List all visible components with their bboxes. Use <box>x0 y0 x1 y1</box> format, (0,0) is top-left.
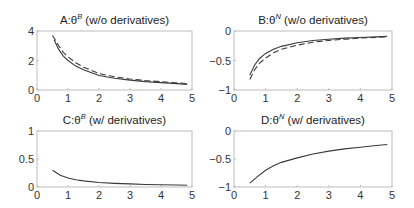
x-tick-label: 3 <box>326 92 332 104</box>
x-tick-label: 0 <box>34 189 40 201</box>
x-tick-label: 4 <box>158 92 164 104</box>
y-tick-label: −0.5 <box>209 153 231 165</box>
series-line-B-dashed <box>250 37 387 79</box>
y-tick-label: 2 <box>28 55 34 67</box>
x-tick-label: 2 <box>294 189 300 201</box>
series-line-A-dashed <box>53 35 188 83</box>
panel-B: 012345−1−0.50B:θN (w/o derivatives) <box>209 12 395 104</box>
x-tick-label: 2 <box>96 189 102 201</box>
y-tick-label: −1 <box>218 181 231 193</box>
panel-D: 012345−1−0.50D:θN (w/ derivatives) <box>209 112 395 201</box>
x-tick-label: 0 <box>34 92 40 104</box>
x-tick-label: 0 <box>231 92 237 104</box>
y-tick-label: −0.5 <box>209 55 231 67</box>
y-tick-label: 0 <box>28 84 34 96</box>
y-tick-label: 0 <box>225 25 231 37</box>
series-line-B-solid <box>250 36 387 75</box>
y-tick-label: 1 <box>28 125 34 137</box>
chart-title-D: D:θN (w/ derivatives) <box>261 112 365 126</box>
x-tick-label: 5 <box>389 92 395 104</box>
x-tick-label: 3 <box>127 92 133 104</box>
y-tick-label: 4 <box>28 25 34 37</box>
x-tick-label: 5 <box>389 189 395 201</box>
x-tick-label: 5 <box>189 92 195 104</box>
panel-A: 012345024A:θB (w/o derivatives) <box>28 12 195 104</box>
figure: 012345024A:θB (w/o derivatives)012345−1−… <box>0 0 414 208</box>
x-tick-label: 1 <box>263 189 269 201</box>
axes-box-A <box>37 31 192 90</box>
x-tick-label: 3 <box>326 189 332 201</box>
y-tick-label: −1 <box>218 84 231 96</box>
panel-C: 01234500.51C:θB (w/ derivatives) <box>19 112 195 201</box>
series-line-D-solid <box>250 144 387 183</box>
x-tick-label: 0 <box>231 189 237 201</box>
x-tick-label: 4 <box>158 189 164 201</box>
y-tick-label: 0 <box>28 181 34 193</box>
x-tick-label: 4 <box>357 92 363 104</box>
x-tick-label: 4 <box>357 189 363 201</box>
axes-box-C <box>37 131 192 187</box>
y-tick-label: 0.5 <box>19 153 34 165</box>
chart-title-C: C:θB (w/ derivatives) <box>63 112 167 126</box>
x-tick-label: 1 <box>65 92 71 104</box>
x-tick-label: 2 <box>294 92 300 104</box>
x-tick-label: 2 <box>96 92 102 104</box>
x-tick-label: 1 <box>263 92 269 104</box>
x-tick-label: 3 <box>127 189 133 201</box>
x-tick-label: 5 <box>189 189 195 201</box>
chart-title-B: B:θN (w/o derivatives) <box>258 12 368 26</box>
chart-title-A: A:θB (w/o derivatives) <box>60 12 169 26</box>
series-line-C-solid <box>53 170 188 185</box>
axes-box-D <box>234 131 392 187</box>
y-tick-label: 0 <box>225 125 231 137</box>
x-tick-label: 1 <box>65 189 71 201</box>
